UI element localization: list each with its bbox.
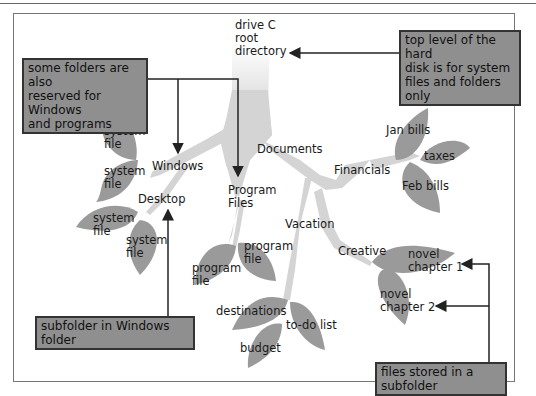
file-budget: budget <box>240 342 281 355</box>
file-system-2: system file <box>104 165 146 191</box>
callout-top-level-line2: disk is for system <box>405 61 515 75</box>
callout-top-level-line3: files and folders only <box>405 75 515 103</box>
root-label: drive C root directory <box>235 19 286 58</box>
file-novel-1-line2: chapter 1 <box>408 261 463 274</box>
file-novel-2-line2: chapter 2 <box>380 301 435 314</box>
callout-reserved-line1: some folders are also <box>28 61 142 89</box>
file-program-1: program file <box>192 262 241 288</box>
file-destinations: destinations <box>216 305 286 318</box>
file-system-4: system file <box>126 234 168 260</box>
folder-program-files-line2: Files <box>228 197 277 210</box>
root-label-line3: directory <box>235 45 286 58</box>
arrow-files-stored <box>462 264 489 363</box>
callout-reserved-line2: reserved for Windows <box>28 89 142 117</box>
folder-program-files: Program Files <box>228 184 277 210</box>
callout-top-level-line1: top level of the hard <box>405 33 515 61</box>
file-todo: to-do list <box>286 319 337 332</box>
file-program-2: program file <box>244 240 293 266</box>
file-system-2-line2: file <box>104 178 146 191</box>
callout-files-stored: files stored in a subfolder <box>375 362 507 396</box>
callout-top-level: top level of the hard disk is for system… <box>399 30 521 106</box>
folder-creative: Creative <box>338 245 386 258</box>
callout-reserved: some folders are also reserved for Windo… <box>22 58 148 134</box>
file-jan-bills: Jan bills <box>386 124 430 137</box>
file-novel-2: novel chapter 2 <box>380 288 435 314</box>
folder-documents: Documents <box>257 143 323 156</box>
callout-subfolder: subfolder in Windows folder <box>35 316 195 350</box>
file-novel-1: novel chapter 1 <box>408 248 463 274</box>
folder-windows: Windows <box>152 160 203 173</box>
file-taxes: taxes <box>424 150 455 163</box>
folder-financials: Financials <box>334 164 390 177</box>
folder-vacation: Vacation <box>285 218 334 231</box>
folder-desktop: Desktop <box>138 193 185 206</box>
file-program-2-line2: file <box>244 253 293 266</box>
file-system-1-line2: file <box>104 138 146 151</box>
file-feb-bills: Feb bills <box>402 180 449 193</box>
file-program-1-line2: file <box>192 275 241 288</box>
callout-reserved-line3: and programs <box>28 117 142 131</box>
file-system-4-line2: file <box>126 247 168 260</box>
